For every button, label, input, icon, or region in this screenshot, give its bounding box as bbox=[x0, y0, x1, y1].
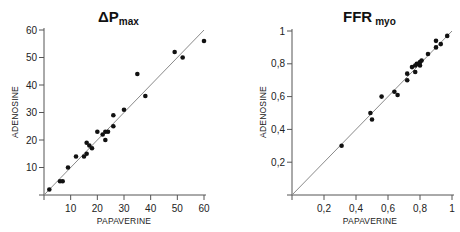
x-tick-label: 20 bbox=[92, 203, 104, 214]
data-point bbox=[395, 93, 400, 98]
ffr-myo-plot: FFRmyo 0,20,40,60,810,20,40,60,81 PAPAVE… bbox=[230, 0, 460, 232]
data-point bbox=[47, 187, 52, 192]
data-point bbox=[84, 151, 89, 156]
data-point bbox=[392, 89, 397, 94]
x-tick-label: 0,8 bbox=[413, 203, 427, 214]
data-point bbox=[368, 111, 373, 116]
data-point bbox=[439, 42, 444, 47]
y-tick-label: 50 bbox=[26, 52, 38, 63]
data-point bbox=[172, 50, 177, 55]
x-tick-label: 0,4 bbox=[349, 203, 363, 214]
y-tick-label: 40 bbox=[26, 80, 38, 91]
y-tick-label: 0,4 bbox=[271, 124, 285, 135]
y-tick-label: 0,2 bbox=[271, 157, 285, 168]
x-axis-label: PAPAVERINE bbox=[97, 216, 152, 226]
delta-p-max-plot: ΔPmax 102030405060102030405060 PAPAVERIN… bbox=[0, 0, 230, 232]
data-point bbox=[413, 70, 418, 75]
x-tick-label: 0,6 bbox=[381, 203, 395, 214]
y-tick-label: 0,6 bbox=[271, 91, 285, 102]
x-tick-label: 30 bbox=[118, 203, 130, 214]
data-point bbox=[434, 45, 439, 50]
data-point bbox=[143, 94, 148, 99]
ffr-myo-chart: FFRmyo 0,20,40,60,810,20,40,60,81 PAPAVE… bbox=[230, 0, 460, 232]
y-tick-label: 0,8 bbox=[271, 58, 285, 69]
data-point bbox=[370, 117, 375, 122]
x-tick-label: 40 bbox=[145, 203, 157, 214]
data-point bbox=[106, 129, 111, 134]
data-point bbox=[66, 165, 71, 170]
data-point bbox=[122, 107, 127, 112]
data-point bbox=[111, 113, 116, 118]
data-point bbox=[74, 154, 79, 159]
x-tick-label: 60 bbox=[198, 203, 210, 214]
data-point bbox=[379, 94, 384, 99]
data-point bbox=[405, 71, 410, 76]
y-axis-label: ADENOSINE bbox=[10, 86, 20, 138]
x-tick-label: 0,2 bbox=[317, 203, 331, 214]
data-point bbox=[202, 39, 207, 44]
data-point bbox=[180, 55, 185, 60]
y-axis-label: ADENOSINE bbox=[258, 86, 268, 138]
data-point bbox=[90, 146, 95, 151]
data-point bbox=[419, 58, 424, 63]
chart-title: FFRmyo bbox=[343, 8, 396, 27]
x-tick-label: 1 bbox=[449, 203, 455, 214]
delta-p-max-chart: ΔPmax 102030405060102030405060 PAPAVERIN… bbox=[0, 0, 230, 232]
identity-line bbox=[44, 30, 204, 195]
data-point bbox=[339, 144, 344, 149]
x-axis-label: PAPAVERINE bbox=[343, 216, 398, 226]
data-point bbox=[103, 138, 108, 143]
data-point bbox=[95, 129, 100, 134]
y-tick-label: 10 bbox=[26, 162, 38, 173]
y-tick-label: 1 bbox=[279, 26, 285, 37]
chart-title: ΔPmax bbox=[98, 8, 139, 27]
data-point bbox=[111, 124, 116, 129]
data-points bbox=[47, 39, 206, 192]
y-tick-label: 30 bbox=[26, 107, 38, 118]
data-point bbox=[135, 72, 140, 77]
data-point bbox=[426, 52, 431, 57]
y-tick-label: 20 bbox=[26, 135, 38, 146]
data-point bbox=[60, 179, 65, 184]
y-tick-label: 60 bbox=[26, 25, 38, 36]
x-tick-label: 10 bbox=[65, 203, 77, 214]
data-point bbox=[445, 34, 450, 39]
x-tick-label: 50 bbox=[172, 203, 184, 214]
data-point bbox=[405, 78, 410, 83]
data-point bbox=[434, 39, 439, 44]
